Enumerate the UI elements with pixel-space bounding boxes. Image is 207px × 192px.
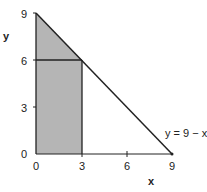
x-tick-label-3: 3 — [79, 160, 85, 172]
x-tick-label-0: 0 — [33, 160, 39, 172]
y-axis-label: y — [3, 30, 10, 42]
y-tick-label-3: 3 — [21, 102, 27, 114]
y-tick-label-9: 9 — [21, 8, 27, 20]
chart: 9 6 3 0 y 0 3 6 9 x y = 9 − x — [0, 0, 207, 192]
x-tick-label-6: 6 — [124, 160, 130, 172]
y-tick-label-6: 6 — [21, 55, 27, 67]
line-annotation: y = 9 − x — [165, 127, 207, 139]
y-tick-label-0: 0 — [21, 148, 27, 160]
line-endpoint — [171, 153, 174, 156]
x-axis-label: x — [148, 175, 155, 187]
shaded-region — [36, 13, 82, 154]
x-tick-label-9: 9 — [169, 160, 175, 172]
